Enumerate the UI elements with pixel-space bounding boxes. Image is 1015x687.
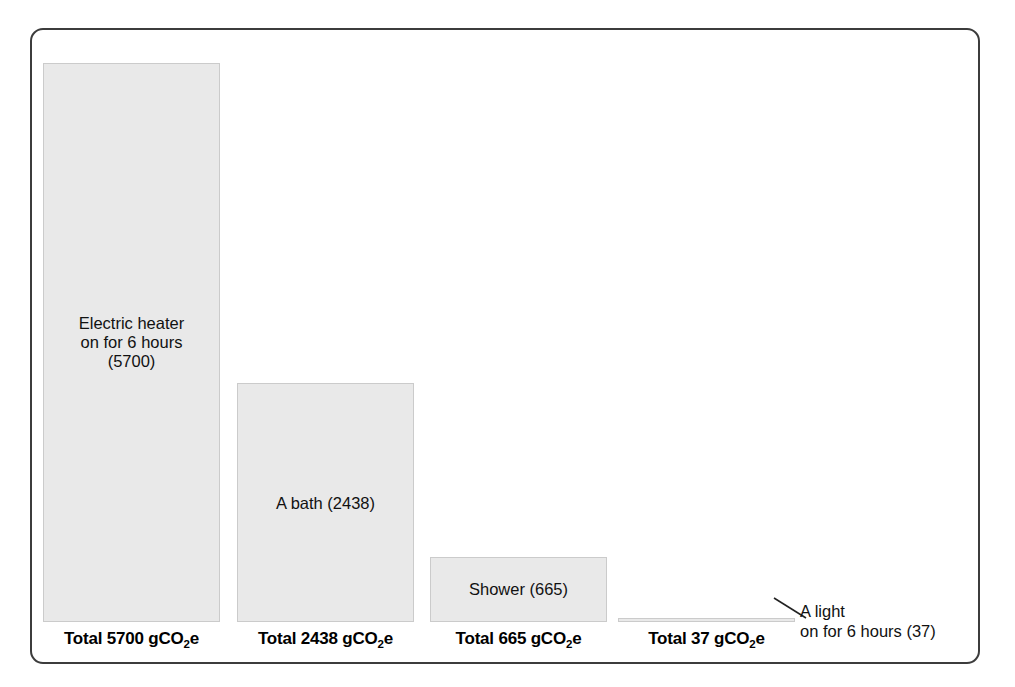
total-sub-electric-heater: 2	[184, 638, 190, 650]
bar-electric-heater	[43, 63, 220, 622]
total-label-a-bath: Total 2438 gCO2e	[237, 629, 414, 649]
total-label-electric-heater: Total 5700 gCO2e	[43, 629, 220, 649]
total-tail-shower: e	[572, 629, 581, 648]
total-label-shower: Total 665 gCO2e	[430, 629, 607, 649]
total-tail-a-light: e	[756, 629, 765, 648]
total-text-electric-heater: Total 5700 gCO	[64, 629, 184, 648]
total-text-a-light: Total 37 gCO	[648, 629, 749, 648]
total-tail-electric-heater: e	[190, 629, 199, 648]
total-text-a-bath: Total 2438 gCO	[258, 629, 378, 648]
total-sub-a-bath: 2	[378, 638, 384, 650]
total-label-a-light: Total 37 gCO2e	[618, 629, 795, 649]
total-sub-shower: 2	[566, 638, 572, 650]
annotation-a-light: A light on for 6 hours (37)	[800, 601, 985, 641]
bar-a-light	[618, 618, 795, 622]
chart-figure: Electric heater on for 6 hours (5700) To…	[0, 0, 1015, 687]
total-sub-a-light: 2	[749, 638, 755, 650]
total-tail-a-bath: e	[384, 629, 393, 648]
bar-a-bath	[237, 383, 414, 622]
plot-area: Electric heater on for 6 hours (5700) To…	[0, 0, 1015, 687]
total-text-shower: Total 665 gCO	[456, 629, 566, 648]
bar-shower	[430, 557, 607, 622]
